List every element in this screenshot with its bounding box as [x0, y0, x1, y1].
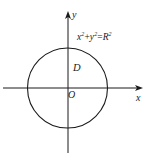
eq-r-exponent: 2 [109, 31, 112, 37]
region-label-d: D [73, 63, 81, 74]
circle-region-figure: x2+y2=R2 y x D O [0, 0, 147, 156]
x-axis-label: x [136, 93, 140, 103]
y-axis-label: y [72, 10, 76, 20]
origin-label-o: O [68, 90, 75, 100]
figure-canvas [0, 0, 147, 156]
circle-equation-label: x2+y2=R2 [77, 33, 112, 43]
